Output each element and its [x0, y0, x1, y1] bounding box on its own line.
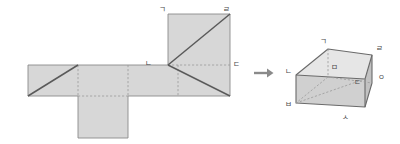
solid-label-siot: ㅅ	[342, 113, 349, 122]
net-panel-third	[128, 65, 178, 96]
solid-label-ieung: ㅇ	[378, 73, 385, 82]
solid-label-giyeok: ㄱ	[320, 37, 327, 46]
net-panel-bottom-flap	[78, 96, 128, 138]
solid-label-rieul: ㄹ	[376, 44, 383, 53]
net-label-nieun: ㄴ	[145, 59, 152, 68]
arrow-head-icon	[267, 69, 274, 78]
net-panel-second	[78, 65, 128, 96]
transform-arrow-group	[254, 69, 274, 78]
solid-label-bieup: ㅂ	[285, 100, 292, 109]
net-group: ㄱ ㄹ ㄴ ㄷ	[28, 5, 240, 138]
solid-label-nieun: ㄴ	[285, 67, 292, 76]
solid-label-digeut: ㄷ	[354, 78, 361, 87]
solid-group: ㄱ ㄹ ㄴ ㅁ ㅇ ㄷ ㅂ ㅅ	[285, 37, 385, 122]
net-label-rieul: ㄹ	[223, 5, 230, 14]
geometry-figure: ㄱ ㄹ ㄴ ㄷ	[0, 0, 400, 144]
net-label-digeut: ㄷ	[233, 60, 240, 69]
net-label-giyeok: ㄱ	[159, 5, 166, 14]
figure-canvas: ㄱ ㄹ ㄴ ㄷ	[0, 0, 400, 144]
solid-label-mieum: ㅁ	[331, 63, 338, 72]
